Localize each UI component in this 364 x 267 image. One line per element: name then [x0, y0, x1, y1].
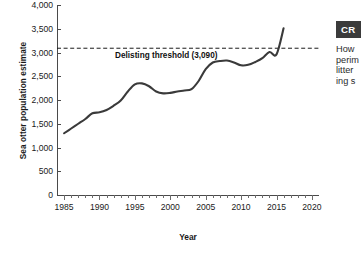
x-tick-mark-minor: [234, 195, 235, 198]
x-tick-mark-minor: [149, 195, 150, 198]
x-tick-label: 1985: [55, 202, 74, 212]
x-tick-mark-minor: [262, 195, 263, 198]
x-tick-mark-minor: [71, 195, 72, 198]
x-tick-label: 2015: [267, 202, 286, 212]
x-tick-mark-minor: [92, 195, 93, 198]
y-tick-label: 1,500: [0, 119, 53, 129]
x-tick-mark-minor: [192, 195, 193, 198]
sea-otter-population-chart: Sea otter population estimate 05001,0001…: [0, 0, 330, 267]
x-tick-label: 2000: [161, 202, 180, 212]
x-tick-mark-minor: [78, 195, 79, 198]
y-tick-label: 0: [0, 190, 53, 200]
x-tick-mark-major: [277, 195, 278, 200]
x-tick-mark-minor: [248, 195, 249, 198]
x-tick-label: 1990: [90, 202, 109, 212]
callout-badge: CR: [336, 21, 361, 38]
callout-line: perim: [336, 55, 364, 66]
y-tick-label: 500: [0, 166, 53, 176]
x-tick-label: 2010: [232, 202, 251, 212]
data-line-sea-otter-population: [57, 5, 319, 195]
y-tick-label: 3,000: [0, 48, 53, 58]
x-tick-mark-minor: [163, 195, 164, 198]
x-axis-line: [57, 195, 319, 196]
callout-line: How: [336, 44, 364, 55]
chart-page: Sea otter population estimate 05001,0001…: [0, 0, 364, 267]
x-tick-mark-major: [170, 195, 171, 200]
callout-line: ing s: [336, 76, 364, 87]
x-tick-mark-minor: [107, 195, 108, 198]
x-tick-mark-minor: [85, 195, 86, 198]
x-tick-mark-minor: [177, 195, 178, 198]
x-axis-title: Year: [57, 232, 319, 242]
x-tick-mark-minor: [227, 195, 228, 198]
y-tick-mark: [57, 195, 61, 196]
x-tick-mark-minor: [114, 195, 115, 198]
x-tick-label: 2005: [196, 202, 215, 212]
callout-line: litter: [336, 65, 364, 76]
y-tick-label: 2,500: [0, 71, 53, 81]
x-tick-mark-minor: [213, 195, 214, 198]
x-tick-mark-major: [206, 195, 207, 200]
x-tick-mark-minor: [156, 195, 157, 198]
x-tick-mark-minor: [291, 195, 292, 198]
x-tick-mark-minor: [269, 195, 270, 198]
x-tick-mark-major: [64, 195, 65, 200]
x-tick-mark-minor: [298, 195, 299, 198]
x-tick-mark-minor: [184, 195, 185, 198]
x-tick-mark-minor: [128, 195, 129, 198]
x-tick-mark-major: [241, 195, 242, 200]
y-tick-label: 2,000: [0, 95, 53, 105]
x-tick-mark-minor: [284, 195, 285, 198]
y-tick-label: 3,500: [0, 24, 53, 34]
y-tick-label: 4,000: [0, 0, 53, 10]
delisting-threshold-label: Delisting threshold (3,090): [115, 51, 217, 60]
x-tick-mark-minor: [305, 195, 306, 198]
x-tick-mark-minor: [121, 195, 122, 198]
x-tick-mark-minor: [220, 195, 221, 198]
x-tick-mark-minor: [199, 195, 200, 198]
x-tick-mark-minor: [142, 195, 143, 198]
callout-text: Howperimlittering s: [336, 44, 364, 86]
x-tick-label: 2020: [302, 202, 321, 212]
side-callout: CR Howperimlittering s: [336, 19, 364, 262]
x-tick-mark-major: [312, 195, 313, 200]
x-tick-mark-major: [99, 195, 100, 200]
x-tick-label: 1995: [125, 202, 144, 212]
population-line-path: [64, 28, 284, 133]
y-tick-label: 1,000: [0, 143, 53, 153]
x-tick-mark-major: [135, 195, 136, 200]
x-tick-mark-minor: [255, 195, 256, 198]
plot-area: [57, 5, 319, 195]
